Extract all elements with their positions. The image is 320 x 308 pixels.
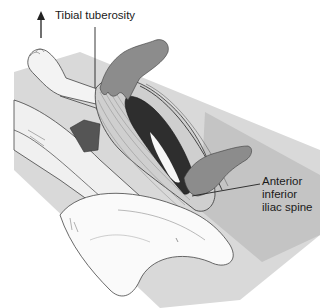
up-arrow-icon bbox=[37, 11, 45, 38]
anatomical-figure: Tibial tuberosity Anterior inferior ilia… bbox=[0, 0, 320, 308]
label-tibial-tuberosity: Tibial tuberosity bbox=[55, 9, 135, 22]
label-line: inferior bbox=[262, 188, 313, 201]
label-line: iliac spine bbox=[262, 201, 313, 214]
label-line: Anterior bbox=[262, 175, 313, 188]
illustration bbox=[0, 0, 320, 308]
label-anterior-inferior-iliac-spine: Anterior inferior iliac spine bbox=[262, 175, 313, 214]
